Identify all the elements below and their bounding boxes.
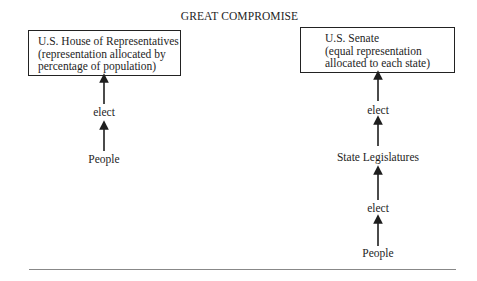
state-legislatures-label: State Legislatures: [337, 151, 419, 163]
senate-people-label: People: [362, 247, 393, 259]
house-people-label: People: [88, 153, 119, 165]
bottom-divider: [29, 269, 456, 270]
house-elect-label: elect: [93, 106, 115, 118]
senate-elect-label-1: elect: [367, 104, 389, 116]
senate-elect-label-2: elect: [367, 202, 389, 214]
arrows-layer: [0, 0, 477, 281]
